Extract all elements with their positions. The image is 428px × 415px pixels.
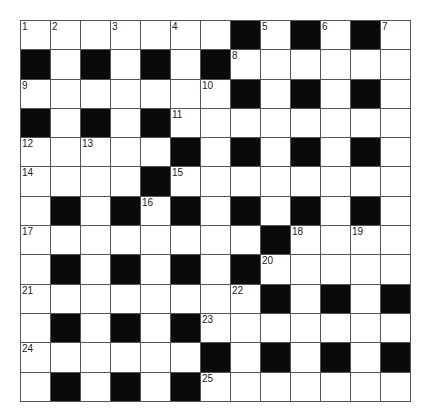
crossword-cell[interactable] — [291, 314, 321, 343]
crossword-cell[interactable] — [171, 226, 201, 255]
crossword-cell[interactable]: 1 — [21, 21, 51, 50]
crossword-cell[interactable] — [201, 226, 231, 255]
crossword-cell[interactable]: 20 — [261, 255, 291, 284]
crossword-cell[interactable] — [381, 373, 411, 402]
crossword-cell[interactable] — [141, 343, 171, 372]
crossword-cell[interactable] — [81, 255, 111, 284]
crossword-cell[interactable]: 17 — [21, 226, 51, 255]
crossword-cell[interactable]: 19 — [351, 226, 381, 255]
crossword-cell[interactable] — [21, 373, 51, 402]
crossword-cell[interactable] — [351, 109, 381, 138]
crossword-cell[interactable] — [201, 255, 231, 284]
crossword-cell[interactable] — [51, 50, 81, 79]
crossword-cell[interactable] — [21, 197, 51, 226]
crossword-cell[interactable] — [351, 167, 381, 196]
crossword-cell[interactable] — [321, 109, 351, 138]
crossword-cell[interactable] — [351, 255, 381, 284]
crossword-cell[interactable] — [351, 373, 381, 402]
crossword-cell[interactable] — [51, 109, 81, 138]
crossword-cell[interactable] — [261, 80, 291, 109]
crossword-cell[interactable] — [291, 285, 321, 314]
crossword-cell[interactable] — [261, 109, 291, 138]
crossword-cell[interactable] — [261, 373, 291, 402]
crossword-cell[interactable] — [291, 373, 321, 402]
crossword-cell[interactable] — [201, 21, 231, 50]
crossword-cell[interactable] — [351, 285, 381, 314]
crossword-cell[interactable] — [171, 285, 201, 314]
crossword-cell[interactable] — [21, 314, 51, 343]
crossword-cell[interactable] — [111, 285, 141, 314]
crossword-cell[interactable] — [81, 226, 111, 255]
crossword-cell[interactable] — [321, 373, 351, 402]
crossword-cell[interactable] — [81, 197, 111, 226]
crossword-cell[interactable]: 14 — [21, 167, 51, 196]
crossword-cell[interactable] — [351, 50, 381, 79]
crossword-cell[interactable] — [111, 226, 141, 255]
crossword-cell[interactable] — [291, 343, 321, 372]
crossword-cell[interactable] — [171, 50, 201, 79]
crossword-cell[interactable] — [51, 285, 81, 314]
crossword-cell[interactable] — [381, 197, 411, 226]
crossword-cell[interactable] — [111, 343, 141, 372]
crossword-cell[interactable] — [381, 138, 411, 167]
crossword-cell[interactable] — [231, 167, 261, 196]
crossword-cell[interactable] — [231, 226, 261, 255]
crossword-cell[interactable] — [111, 167, 141, 196]
crossword-cell[interactable] — [321, 138, 351, 167]
crossword-cell[interactable]: 7 — [381, 21, 411, 50]
crossword-cell[interactable] — [51, 226, 81, 255]
crossword-cell[interactable] — [291, 50, 321, 79]
crossword-cell[interactable]: 5 — [261, 21, 291, 50]
crossword-cell[interactable] — [81, 167, 111, 196]
crossword-cell[interactable] — [231, 109, 261, 138]
crossword-cell[interactable]: 15 — [171, 167, 201, 196]
crossword-cell[interactable]: 8 — [231, 50, 261, 79]
crossword-cell[interactable]: 4 — [171, 21, 201, 50]
crossword-cell[interactable] — [231, 373, 261, 402]
crossword-cell[interactable] — [261, 138, 291, 167]
crossword-cell[interactable]: 12 — [21, 138, 51, 167]
crossword-cell[interactable]: 22 — [231, 285, 261, 314]
crossword-cell[interactable] — [261, 167, 291, 196]
crossword-cell[interactable] — [111, 50, 141, 79]
crossword-cell[interactable] — [21, 255, 51, 284]
crossword-cell[interactable] — [51, 167, 81, 196]
crossword-cell[interactable] — [141, 80, 171, 109]
crossword-cell[interactable] — [81, 21, 111, 50]
crossword-cell[interactable] — [381, 255, 411, 284]
crossword-cell[interactable] — [81, 343, 111, 372]
crossword-cell[interactable] — [381, 109, 411, 138]
crossword-cell[interactable]: 9 — [21, 80, 51, 109]
crossword-cell[interactable] — [321, 255, 351, 284]
crossword-cell[interactable] — [321, 226, 351, 255]
crossword-cell[interactable]: 24 — [21, 343, 51, 372]
crossword-cell[interactable]: 3 — [111, 21, 141, 50]
crossword-cell[interactable] — [141, 21, 171, 50]
crossword-cell[interactable] — [81, 314, 111, 343]
crossword-cell[interactable]: 25 — [201, 373, 231, 402]
crossword-cell[interactable] — [141, 226, 171, 255]
crossword-cell[interactable] — [381, 167, 411, 196]
crossword-cell[interactable] — [141, 138, 171, 167]
crossword-cell[interactable] — [141, 373, 171, 402]
crossword-cell[interactable] — [321, 50, 351, 79]
crossword-cell[interactable] — [201, 167, 231, 196]
crossword-cell[interactable] — [51, 138, 81, 167]
crossword-cell[interactable]: 11 — [171, 109, 201, 138]
crossword-cell[interactable] — [381, 50, 411, 79]
crossword-cell[interactable] — [201, 197, 231, 226]
crossword-cell[interactable]: 6 — [321, 21, 351, 50]
crossword-cell[interactable] — [321, 197, 351, 226]
crossword-cell[interactable] — [351, 314, 381, 343]
crossword-cell[interactable] — [321, 314, 351, 343]
crossword-cell[interactable]: 2 — [51, 21, 81, 50]
crossword-cell[interactable] — [81, 285, 111, 314]
crossword-cell[interactable] — [51, 80, 81, 109]
crossword-cell[interactable] — [81, 373, 111, 402]
crossword-cell[interactable] — [261, 50, 291, 79]
crossword-cell[interactable] — [261, 197, 291, 226]
crossword-cell[interactable] — [141, 314, 171, 343]
crossword-cell[interactable] — [321, 167, 351, 196]
crossword-cell[interactable] — [81, 80, 111, 109]
crossword-cell[interactable] — [51, 343, 81, 372]
